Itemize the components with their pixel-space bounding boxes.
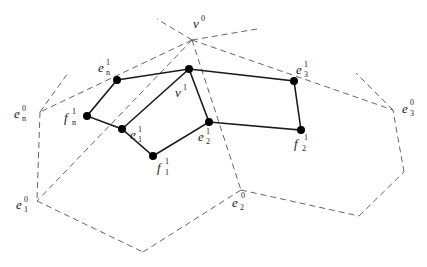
label-e20: e [232, 195, 238, 210]
dashed-ray-v0-upright [192, 29, 257, 40]
label-e20-sub: 2 [240, 203, 244, 212]
label-e11: e [130, 127, 136, 142]
node-e11 [118, 125, 126, 133]
subdivision-diagram: v 0 v 1 e 1 n e 0 n f 1 n e 1 1 f 1 1 e … [0, 0, 427, 267]
label-e10-sup: 0 [24, 195, 28, 204]
label-fn1-sup: 1 [72, 107, 76, 116]
label-e10: e [16, 197, 22, 212]
label-e10-sub: 1 [24, 205, 28, 214]
label-e20-sup: 0 [241, 191, 245, 200]
label-e30-sub: 3 [410, 109, 414, 118]
label-v0: v [193, 16, 199, 31]
dashed-edge-v0-en0 [40, 40, 192, 112]
node-v1 [185, 65, 193, 73]
label-f11-sup: 1 [165, 157, 169, 166]
dashed-edge-en0-e10 [37, 112, 40, 201]
label-v1-sup: 1 [183, 83, 187, 92]
label-fn1: f [64, 110, 70, 125]
label-f21: f [294, 136, 300, 151]
dashed-edge-r-e30 [393, 110, 404, 172]
label-en1-sup: 1 [106, 58, 110, 67]
label-e31-sub: 3 [304, 70, 308, 79]
label-e21: e [198, 129, 204, 144]
label-en0-sup: 0 [22, 104, 26, 113]
dashed-edge-bottom-e20 [143, 190, 241, 252]
label-f11-sub: 1 [165, 168, 169, 177]
label-e31: e [296, 62, 302, 77]
node-e21 [205, 118, 213, 126]
dashed-edge-e10-bottom [37, 201, 143, 252]
node-en1 [113, 76, 121, 84]
dashed-ray-v0-upleft [157, 19, 192, 40]
label-v0-sup: 0 [201, 14, 205, 23]
node-fn1 [83, 112, 91, 120]
dashed-edge-e20-br [241, 190, 359, 216]
label-en1: e [98, 60, 104, 75]
label-f21-sub: 2 [302, 144, 306, 153]
label-en0: e [14, 106, 20, 121]
node-e31 [290, 77, 298, 85]
label-e11-sub: 1 [138, 135, 142, 144]
label-f21-sup: 1 [304, 133, 308, 142]
dashed-ray-e30 [356, 73, 393, 110]
label-e30: e [402, 101, 408, 116]
label-e30-sup: 0 [410, 98, 414, 107]
dashed-ray-en0 [40, 73, 68, 112]
label-en0-sub: n [22, 114, 26, 123]
label-v1: v [175, 85, 181, 100]
label-fn1-sub: n [72, 118, 76, 127]
node-f11 [149, 152, 157, 160]
label-e31-sup: 1 [304, 60, 308, 69]
dashed-edge-v0-e20 [192, 40, 241, 190]
label-e21-sub: 2 [206, 137, 210, 146]
label-e11-sup: 1 [138, 125, 142, 134]
dashed-edge-br-r [359, 172, 404, 216]
labels: v 0 v 1 e 1 n e 0 n f 1 n e 1 1 f 1 1 e … [14, 14, 414, 214]
dashed-edge-v0-e30 [192, 40, 393, 110]
label-f11: f [157, 160, 163, 175]
label-en1-sub: n [106, 68, 110, 77]
solid-edge-v1-e21 [189, 69, 209, 122]
dashed-edges [37, 19, 404, 252]
label-e21-sup: 1 [206, 127, 210, 136]
